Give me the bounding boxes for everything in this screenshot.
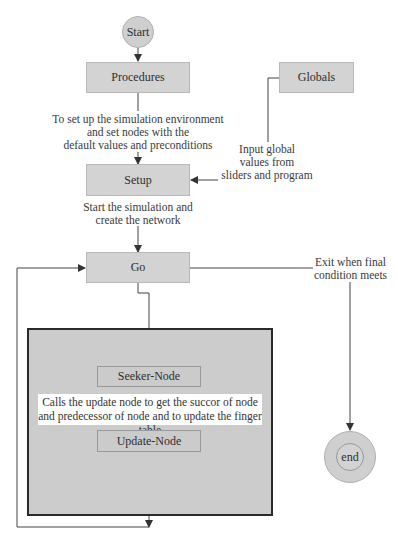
end-label: end bbox=[341, 450, 358, 465]
procedures-label: Procedures bbox=[111, 70, 164, 85]
procedures-node: Procedures bbox=[86, 62, 190, 93]
setup-node: Setup bbox=[86, 164, 190, 196]
desc-line: Calls the update node to get the succor … bbox=[38, 395, 262, 409]
desc-line: Input global bbox=[212, 143, 322, 156]
procedures-description: To set up the simulation environment and… bbox=[40, 113, 236, 152]
end-node-inner: end bbox=[336, 443, 364, 471]
update-node: Update-Node bbox=[97, 430, 201, 452]
setup-label: Setup bbox=[124, 173, 151, 188]
go-node: Go bbox=[86, 252, 190, 283]
start-label: Start bbox=[127, 25, 150, 40]
globals-label: Globals bbox=[298, 70, 335, 85]
desc-line: default values and preconditions bbox=[40, 139, 236, 152]
desc-line: Start the simulation and bbox=[70, 201, 206, 214]
setup-description: Start the simulation and create the netw… bbox=[70, 201, 206, 227]
end-node: end bbox=[324, 431, 376, 483]
desc-line: values from bbox=[212, 156, 322, 169]
start-node: Start bbox=[122, 16, 154, 48]
globals-node: Globals bbox=[279, 62, 354, 93]
desc-line: condition meets bbox=[313, 269, 388, 282]
seeker-description: Calls the update node to get the succor … bbox=[38, 394, 262, 425]
desc-line: sliders and program bbox=[212, 169, 322, 182]
desc-line: and set nodes with the bbox=[40, 126, 236, 139]
seeker-label: Seeker-Node bbox=[118, 369, 180, 384]
desc-line: Exit when final bbox=[313, 256, 388, 269]
desc-line: create the network bbox=[70, 214, 206, 227]
desc-line: To set up the simulation environment bbox=[40, 113, 236, 126]
globals-description: Input global values from sliders and pro… bbox=[212, 143, 322, 182]
update-label: Update-Node bbox=[117, 434, 182, 449]
seeker-node: Seeker-Node bbox=[97, 366, 201, 387]
exit-description: Exit when final condition meets bbox=[313, 256, 388, 282]
go-label: Go bbox=[131, 260, 146, 275]
